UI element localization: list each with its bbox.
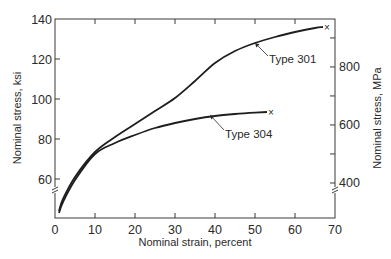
- y-tick-label: 60: [38, 173, 52, 187]
- x-tick-label: 50: [248, 223, 262, 237]
- x-tick-label: 0: [52, 223, 59, 237]
- y-axis-left-label: Nominal stress, ksi: [11, 72, 23, 164]
- annotation-type-301: Type 301: [269, 53, 316, 65]
- x-tick-label: 20: [128, 223, 142, 237]
- x-tick-label: 60: [288, 223, 302, 237]
- curve-annotations: Type 301 Type 304: [210, 43, 316, 140]
- x-tick-label: 40: [208, 223, 222, 237]
- end-marker-type-304: ×: [268, 107, 274, 118]
- data-series: ××: [59, 22, 330, 214]
- y-axis-right-label: Nominal stress, MPa: [371, 66, 383, 168]
- y-right-tick-label: 400: [339, 176, 360, 190]
- y-axis-left-ticks: 6080100120140: [31, 13, 60, 187]
- x-axis-ticks: 010203040506070: [52, 19, 342, 237]
- annotation-arrow-304: [211, 116, 224, 130]
- axis-break-marks: [52, 187, 338, 193]
- x-tick-label: 30: [168, 223, 182, 237]
- x-tick-label: 70: [328, 223, 342, 237]
- y-tick-label: 120: [31, 53, 52, 67]
- x-axis-label: Nominal strain, percent: [138, 236, 251, 248]
- y-tick-label: 100: [31, 93, 52, 107]
- end-marker-type-301: ×: [324, 22, 330, 33]
- annotation-type-304: Type 304: [225, 128, 273, 140]
- x-tick-label: 10: [88, 223, 102, 237]
- y-tick-label: 140: [31, 13, 52, 27]
- y-right-tick-label: 600: [339, 118, 360, 132]
- y-tick-label: 80: [38, 133, 52, 147]
- y-axis-right-ticks: 400600800: [330, 38, 360, 191]
- y-right-tick-label: 800: [339, 60, 360, 74]
- stress-strain-chart: 010203040506070 6080100120140 400600800 …: [0, 0, 391, 259]
